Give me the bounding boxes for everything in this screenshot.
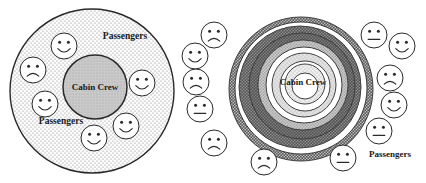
face-happy	[389, 33, 415, 59]
face-happy	[381, 92, 407, 118]
face-neutral	[366, 118, 392, 144]
face-happy	[182, 43, 208, 69]
face-sad	[201, 22, 227, 48]
left-passengers-label-top: Passengers	[103, 31, 148, 41]
face-sad	[251, 149, 277, 175]
face-sad	[183, 69, 209, 95]
panel-right: Cabin Crew Passengers	[182, 17, 415, 175]
figure-root: Cabin Crew Passengers Passengers	[0, 0, 426, 183]
right-passengers-label: Passengers	[369, 149, 411, 159]
face-sad	[20, 57, 46, 83]
face-sad	[377, 65, 403, 91]
left-passengers-label-bottom: Passengers	[39, 116, 84, 126]
face-happy	[32, 91, 58, 117]
face-happy	[129, 70, 155, 96]
right-concentric-rings	[229, 17, 373, 161]
face-happy	[51, 33, 77, 59]
cabin-crew-passengers-figure: Cabin Crew Passengers Passengers	[0, 0, 426, 183]
face-happy	[81, 125, 107, 151]
face-sad	[201, 130, 227, 156]
face-happy	[113, 113, 139, 139]
left-cabin-crew-label: Cabin Crew	[72, 82, 119, 92]
face-neutral	[361, 22, 387, 48]
face-neutral	[187, 96, 213, 122]
panel-left: Cabin Crew Passengers Passengers	[10, 9, 174, 173]
right-cabin-crew-label: Cabin Crew	[280, 77, 327, 87]
face-neutral	[330, 145, 356, 171]
